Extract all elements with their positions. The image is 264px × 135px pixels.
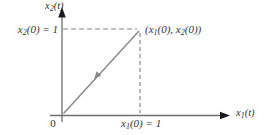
- x-axis-label: x1(t): [236, 106, 255, 119]
- y-axis-label: x2(t): [45, 0, 64, 12]
- y-intercept-label: x2(0) = 1: [4, 23, 58, 36]
- initial-point-label: (x1(0), x2(0)): [145, 23, 201, 36]
- x-axis-arrowhead-icon: [220, 112, 230, 119]
- origin-label: 0: [48, 117, 58, 130]
- diagram-canvas: [0, 0, 264, 135]
- x-intercept-label: x1(0) = 1: [121, 117, 161, 130]
- phase-plane-diagram: x2(t) x2(0) = 1 (x1(0), x2(0)) 0 x1(0) =…: [0, 0, 264, 135]
- trajectory-line: [64, 31, 140, 114]
